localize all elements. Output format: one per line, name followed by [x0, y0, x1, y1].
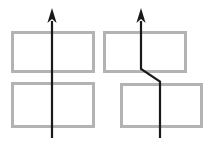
- diagram-svg: [0, 0, 214, 143]
- diagram-canvas: [0, 0, 214, 143]
- top-right-box: [105, 33, 186, 72]
- bottom-right-box: [122, 85, 202, 127]
